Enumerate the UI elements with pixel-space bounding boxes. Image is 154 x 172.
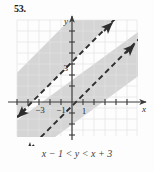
textbook-figure: 53. (0, 0, 154, 172)
x-tick-label-neg3: −3 (35, 105, 45, 115)
coordinate-graph: y x −3 −1 1 3 (0, 14, 154, 146)
shaded-solution-band (0, 14, 154, 146)
problem-number: 53. (14, 3, 26, 14)
figure-caption-inequality: x − 1 < y < x + 3 (0, 148, 154, 159)
graph-svg: y x −3 −1 1 3 (0, 14, 154, 146)
x-axis-label: x (141, 104, 146, 114)
y-axis-label: y (63, 16, 68, 26)
y-tick-label-3: 3 (64, 63, 69, 73)
x-tick-label-pos1: 1 (82, 106, 87, 116)
x-tick-label-neg1: −1 (56, 105, 66, 115)
